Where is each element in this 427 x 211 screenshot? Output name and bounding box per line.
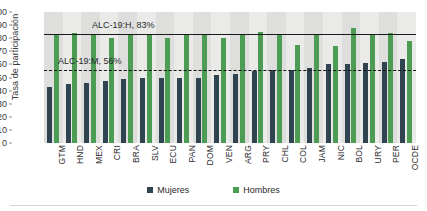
bar-hombres bbox=[407, 41, 412, 143]
legend-item-hombres: Hombres bbox=[233, 185, 280, 195]
bar-mujeres bbox=[159, 78, 164, 144]
reference-label-alc-hombres: ALC-19:H, 83% bbox=[92, 20, 155, 30]
bar-group bbox=[81, 12, 100, 143]
x-axis-tick-label: ARG bbox=[243, 145, 253, 164]
y-axis-tick-label: 50 bbox=[0, 73, 7, 83]
bar-series-container bbox=[44, 12, 416, 143]
y-axis-tick-label: 100 bbox=[0, 7, 7, 17]
bar-hombres bbox=[184, 34, 189, 143]
bar-hombres bbox=[109, 38, 114, 143]
bar-hombres bbox=[202, 34, 207, 143]
x-axis-tick-label: URY bbox=[373, 145, 383, 163]
y-axis-tick-label: 90 bbox=[0, 20, 7, 30]
y-axis-tick-mark bbox=[9, 129, 12, 130]
bar-group bbox=[211, 12, 230, 143]
bar-group bbox=[342, 12, 361, 143]
bar-hombres bbox=[351, 28, 356, 143]
x-axis-tick-label: BRA bbox=[131, 145, 141, 163]
reference-line-alc-mujeres bbox=[44, 70, 416, 71]
bar-hombres bbox=[388, 33, 393, 143]
bar-mujeres bbox=[214, 75, 219, 143]
x-axis-tick-label: MEX bbox=[94, 145, 104, 164]
bar-mujeres bbox=[196, 78, 201, 144]
y-axis-tick-mark bbox=[9, 25, 12, 26]
y-axis-tick-mark bbox=[9, 77, 12, 78]
y-axis-tick-label: 0 bbox=[0, 138, 7, 148]
chart-legend: Mujeres Hombres bbox=[0, 185, 427, 195]
x-axis-tick-label: HND bbox=[75, 145, 85, 164]
x-axis-tick-label: PER bbox=[391, 145, 401, 163]
y-axis-tick-mark bbox=[9, 12, 12, 13]
y-axis-tick-label: 80 bbox=[0, 33, 7, 43]
bar-group bbox=[100, 12, 119, 143]
bar-group bbox=[286, 12, 305, 143]
bar-hombres bbox=[258, 32, 263, 143]
footer-divider bbox=[10, 205, 417, 206]
legend-label-hombres: Hombres bbox=[243, 185, 280, 195]
x-axis-tick-label: JAM bbox=[317, 145, 327, 163]
participation-rate-bar-chart: Tasa de participación ALC-19:H, 83%ALC-1… bbox=[0, 0, 427, 211]
bar-hombres bbox=[147, 34, 152, 143]
bar-mujeres bbox=[270, 70, 275, 143]
bar-mujeres bbox=[66, 84, 71, 143]
bar-group bbox=[267, 12, 286, 143]
x-axis-tick-label: PRY bbox=[261, 145, 271, 163]
x-axis-tick-label: CHL bbox=[280, 145, 290, 163]
bar-hombres bbox=[370, 34, 375, 143]
bar-mujeres bbox=[140, 78, 145, 144]
bar-group bbox=[360, 12, 379, 143]
y-axis-tick-mark bbox=[9, 90, 12, 91]
y-axis-tick-label: 20 bbox=[0, 112, 7, 122]
x-axis-tick-label: PAN bbox=[187, 145, 197, 162]
bar-group bbox=[118, 12, 137, 143]
x-axis-tick-label: NIC bbox=[336, 145, 346, 160]
x-axis-tick-label: BOL bbox=[354, 145, 364, 163]
reference-label-alc-mujeres: ALC-19:M, 56% bbox=[58, 56, 122, 66]
bar-group bbox=[230, 12, 249, 143]
y-axis-tick-label: 40 bbox=[0, 86, 7, 96]
bar-hombres bbox=[295, 45, 300, 143]
y-axis-tick-mark bbox=[9, 116, 12, 117]
bar-group bbox=[304, 12, 323, 143]
x-axis-tick-label: OCDE bbox=[410, 145, 420, 170]
y-axis-tick-mark bbox=[9, 64, 12, 65]
bar-mujeres bbox=[233, 74, 238, 143]
bar-group bbox=[397, 12, 416, 143]
bar-hombres bbox=[333, 46, 338, 143]
x-axis-tick-label: DOM bbox=[205, 145, 215, 165]
y-axis-tick-label: 60 bbox=[0, 59, 7, 69]
bar-hombres bbox=[54, 34, 59, 143]
y-axis-tick-mark bbox=[9, 38, 12, 39]
x-axis-tick-label: GTM bbox=[57, 145, 67, 164]
y-axis-tick-label: 70 bbox=[0, 46, 7, 56]
bar-hombres bbox=[128, 34, 133, 143]
bar-group bbox=[137, 12, 156, 143]
x-axis-tick-label: COL bbox=[298, 145, 308, 163]
x-axis-tick-label: SLV bbox=[150, 145, 160, 161]
y-axis-tick-label: 30 bbox=[0, 99, 7, 109]
bar-group bbox=[156, 12, 175, 143]
bar-group bbox=[323, 12, 342, 143]
bar-hombres bbox=[221, 38, 226, 143]
x-axis-tick-label: ECU bbox=[168, 145, 178, 164]
bar-group bbox=[63, 12, 82, 143]
x-axis-tick-label: CRI bbox=[112, 145, 122, 160]
bar-hombres bbox=[314, 34, 319, 143]
bar-hombres bbox=[165, 38, 170, 143]
bar-hombres bbox=[240, 34, 245, 143]
bar-group bbox=[44, 12, 63, 143]
bar-mujeres bbox=[363, 63, 368, 143]
x-axis-labels: GTMHNDMEXCRIBRASLVECUPANDOMVENARGPRYCHLC… bbox=[44, 145, 416, 183]
x-axis-tick-label: VEN bbox=[224, 145, 234, 163]
bar-mujeres bbox=[177, 78, 182, 144]
bar-hombres bbox=[72, 33, 77, 143]
bar-group bbox=[379, 12, 398, 143]
bar-mujeres bbox=[326, 64, 331, 143]
y-axis-tick-mark bbox=[9, 51, 12, 52]
bar-group bbox=[249, 12, 268, 143]
bar-mujeres bbox=[103, 81, 108, 143]
bar-hombres bbox=[91, 34, 96, 143]
reference-line-alc-hombres bbox=[44, 34, 416, 35]
bar-mujeres bbox=[252, 71, 257, 143]
bar-mujeres bbox=[47, 87, 52, 143]
